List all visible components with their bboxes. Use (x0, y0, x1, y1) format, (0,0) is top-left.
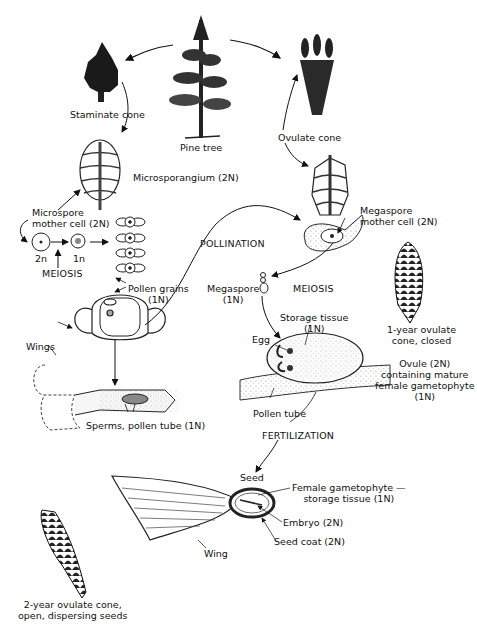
label-1n: 1n (73, 253, 85, 264)
label-microspore-mother-cell: Microspore mother cell (2N) (32, 207, 110, 229)
microsporangium-illustration (80, 140, 120, 210)
label-sperms-pollen-tube: Sperms, pollen tube (1N) (86, 420, 205, 431)
label-fertilization: FERTILIZATION (262, 430, 334, 441)
winged-seed-illustration (112, 476, 274, 540)
label-pollen-tube: Pollen tube (253, 408, 306, 419)
label-ovulate-cone: Ovulate cone (278, 132, 341, 143)
label-wing: Wing (204, 548, 228, 559)
ovulate-cone-section-illustration (312, 155, 348, 215)
label-egg: Egg (252, 334, 270, 345)
one-year-cone-illustration (395, 242, 423, 323)
label-megaspore-mother-cell: Megaspore mother cell (2N) (360, 205, 438, 227)
label-female-gametophyte: Female gametophyte — storage tissue (1N) (292, 482, 406, 504)
label-megaspore: Megaspore (1N) (207, 283, 259, 305)
staminate-cone-illustration (84, 42, 118, 102)
label-embryo: Embryo (2N) (283, 517, 343, 528)
label-seed: Seed (240, 472, 264, 483)
label-pine-tree: Pine tree (180, 142, 222, 153)
label-staminate-cone: Staminate cone (70, 109, 145, 120)
megaspore-tissue-illustration (304, 215, 363, 251)
label-storage-tissue: Storage tissue (1N) (280, 312, 348, 334)
megaspore-illustration (260, 273, 268, 294)
label-microsporangium: Microsporangium (2N) (133, 172, 239, 183)
label-pollen-grains: Pollen grains (1N) (128, 283, 189, 305)
label-pollination: POLLINATION (200, 238, 265, 249)
two-year-cone-illustration (41, 510, 86, 598)
label-one-year-cone: 1-year ovulate cone, closed (387, 324, 456, 346)
label-ovule: Ovule (2N) containing mature female game… (375, 358, 475, 402)
pollen-grain-series (116, 217, 145, 273)
ovulate-cone-illustration (300, 34, 334, 115)
life-cycle-artwork (0, 0, 477, 627)
label-meiosis-left: MEIOSIS (42, 268, 83, 279)
label-2n: 2n (35, 253, 47, 264)
label-seed-coat: Seed coat (2N) (274, 536, 345, 547)
label-meiosis-right: MEIOSIS (293, 283, 334, 294)
label-wings: Wings (26, 341, 55, 352)
label-two-year-cone: 2-year ovulate cone, open, dispersing se… (18, 599, 127, 621)
pine-tree-illustration (169, 15, 231, 138)
